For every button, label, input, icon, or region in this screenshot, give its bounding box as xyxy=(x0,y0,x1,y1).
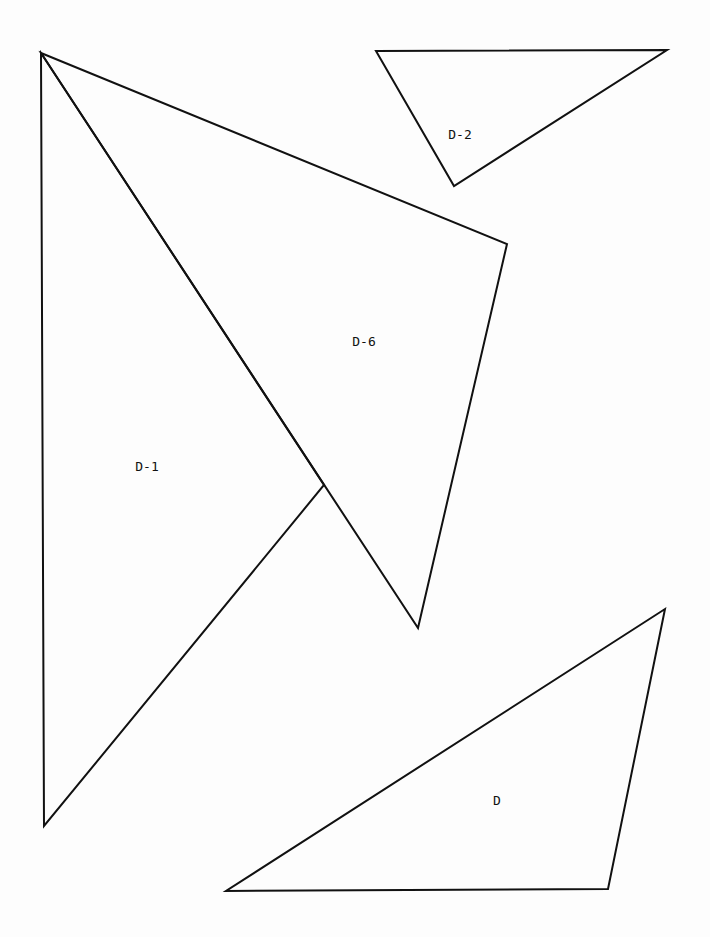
triangle-d-outline xyxy=(226,609,665,891)
triangle-d-6-outline xyxy=(41,53,507,628)
triangle-d-2-outline xyxy=(376,50,667,186)
triangle-d-1: D-1 xyxy=(41,53,324,826)
triangle-d-6-label: D-6 xyxy=(352,334,375,349)
triangle-d-2-label: D-2 xyxy=(448,127,471,142)
triangle-diagram: D-1 D-6 D-2 D xyxy=(0,0,710,937)
triangle-d-1-label: D-1 xyxy=(135,459,158,474)
diagram-canvas: D-1 D-6 D-2 D xyxy=(0,0,710,937)
triangle-d-2: D-2 xyxy=(376,50,667,186)
triangle-d-label: D xyxy=(493,793,501,808)
triangle-d-6: D-6 xyxy=(41,53,507,628)
triangle-d: D xyxy=(226,609,665,891)
triangle-d-1-outline xyxy=(41,53,324,826)
